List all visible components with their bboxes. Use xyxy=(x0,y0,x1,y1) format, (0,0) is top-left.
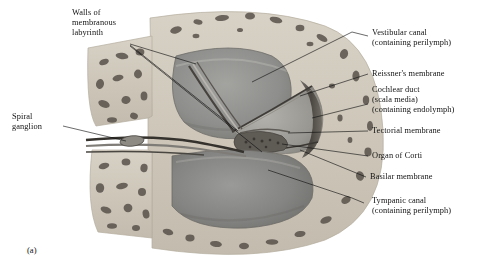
label-basilar-membrane: Basilar membrane xyxy=(370,172,432,182)
figure-marker: (a) xyxy=(27,245,37,255)
label-cochlear-duct: Cochlear duct (scala media) (containing … xyxy=(372,85,454,116)
label-tectorial-membrane: Tectorial membrane xyxy=(372,126,441,136)
cochlea-figure: Walls of membranous labyrinth Spiral gan… xyxy=(0,0,504,270)
label-tympanic-canal: Tympanic canal (containing perilymph) xyxy=(372,196,451,216)
label-spiral-ganglion: Spiral ganglion xyxy=(12,112,42,132)
label-vestibular-canal: Vestibular canal (containing perilymph) xyxy=(372,28,451,48)
label-reissners-membrane: Reissner's membrane xyxy=(372,69,445,79)
tympanic-canal xyxy=(172,150,313,228)
label-walls-of-membranous-labyrinth: Walls of membranous labyrinth xyxy=(72,8,116,39)
label-organ-of-corti: Organ of Corti xyxy=(372,151,422,161)
